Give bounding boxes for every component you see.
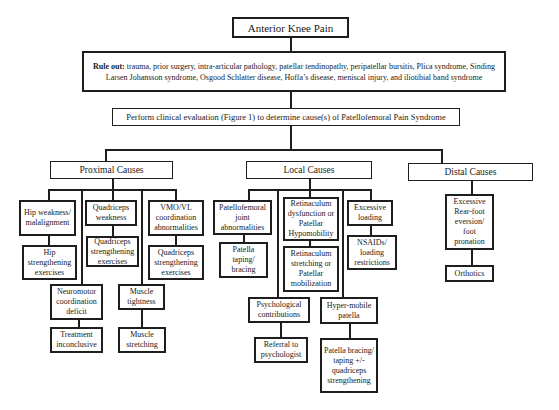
distal-causes-label: Distal Causes <box>445 167 497 177</box>
connector <box>290 125 292 149</box>
connector <box>175 189 177 200</box>
vmo-vl-label: VMO/VL coordination abnormalities <box>152 203 200 233</box>
hip-weakness-box: Hip weakness/ malalignment <box>19 200 76 236</box>
connector <box>243 235 245 242</box>
hyper-mobile-label: Hyper-mobile patella <box>324 301 374 321</box>
nsaids-box: NSAIDs/ loading restrictions <box>347 235 397 270</box>
connector <box>112 189 114 200</box>
treatment-inconclusive-label: Treatment inconclusive <box>54 330 99 350</box>
connector <box>342 189 344 297</box>
connector <box>370 189 372 200</box>
connector <box>141 189 143 284</box>
connector <box>81 189 83 284</box>
local-causes-box: Local Causes <box>246 161 372 179</box>
patella-bracing-box: Patella bracing/ taping +/- quadriceps s… <box>320 338 378 393</box>
patella-taping-box: Patella taping/ bracing <box>219 242 268 278</box>
nsaids-label: NSAIDs/ loading restrictions <box>351 238 393 268</box>
connector <box>78 320 80 327</box>
psychological-label: Psychological contributions <box>252 300 306 320</box>
retinaculum-dysfunction-label: Retinaculum dysfunction or Patellar Hypo… <box>287 199 335 239</box>
proximal-causes-box: Proximal Causes <box>50 161 173 179</box>
quadriceps-strengthening-label-2: Quadriceps strengthening exercises <box>152 248 200 278</box>
proximal-causes-label: Proximal Causes <box>79 165 143 175</box>
patellofemoral-label: Patellofemoral joint abnormalities <box>217 203 268 233</box>
rear-foot-eversion-box: Excessive Rear-foot eversion/ foot prona… <box>445 194 494 250</box>
connector <box>277 189 279 297</box>
muscle-stretching-label: Muscle stretching <box>122 330 162 350</box>
connector <box>112 178 114 189</box>
quadriceps-strengthening-label-1: Quadriceps strengthening exercises <box>90 237 135 267</box>
rule-out-label: Rule out: <box>93 62 125 71</box>
hyper-mobile-box: Hyper-mobile patella <box>320 297 378 324</box>
psychological-box: Psychological contributions <box>248 297 310 323</box>
connector <box>48 236 50 245</box>
connector <box>175 236 177 245</box>
clinical-evaluation-box: Perform clinical evaluation (Figure 1) t… <box>112 108 460 126</box>
connector <box>280 322 282 337</box>
connector <box>290 37 292 51</box>
local-causes-label: Local Causes <box>284 165 335 175</box>
orthotics-box: Orthotics <box>445 265 494 282</box>
muscle-tightness-box: Muscle tightness <box>118 284 165 310</box>
connector <box>471 249 473 265</box>
patellofemoral-box: Patellofemoral joint abnormalities <box>213 200 272 235</box>
hip-strengthening-box: Hip strengthening exercises <box>22 245 77 280</box>
neuromotor-label: Neuromotor coordination deficit <box>54 287 99 317</box>
connector <box>471 180 473 195</box>
treatment-inconclusive-box: Treatment inconclusive <box>50 327 103 353</box>
retinaculum-stretching-label: Retinaculum stretching or Patellar mobil… <box>287 249 335 289</box>
muscle-stretching-box: Muscle stretching <box>118 327 166 353</box>
hip-weakness-label: Hip weakness/ malalignment <box>23 208 72 228</box>
clinical-evaluation-label: Perform clinical evaluation (Figure 1) t… <box>126 112 445 122</box>
excessive-loading-label: Excessive loading <box>351 203 389 223</box>
connector <box>349 323 351 338</box>
rule-out-text: trauma, prior surgery, intra-articular p… <box>106 62 495 82</box>
connector <box>309 179 311 189</box>
referral-box: Referral to psychologist <box>254 337 308 363</box>
patella-taping-label: Patella taping/ bracing <box>223 245 264 275</box>
connector <box>290 91 292 108</box>
connector <box>441 149 443 163</box>
orthotics-label: Orthotics <box>455 269 485 279</box>
quadriceps-strengthening-box-1: Quadriceps strengthening exercises <box>86 236 139 267</box>
connector <box>141 310 143 327</box>
muscle-tightness-label: Muscle tightness <box>122 287 161 307</box>
retinaculum-stretching-box: Retinaculum stretching or Patellar mobil… <box>283 246 339 292</box>
hip-strengthening-label: Hip strengthening exercises <box>26 248 73 278</box>
connector <box>248 189 250 200</box>
quadriceps-weakness-box: Quadriceps weakness <box>85 200 137 226</box>
anterior-knee-pain-label: Anterior Knee Pain <box>248 23 334 33</box>
retinaculum-dysfunction-box: Retinaculum dysfunction or Patellar Hypo… <box>283 197 339 241</box>
patella-bracing-label: Patella bracing/ taping +/- quadriceps s… <box>324 346 374 386</box>
referral-label: Referral to psychologist <box>258 340 304 360</box>
vmo-vl-box: VMO/VL coordination abnormalities <box>148 200 204 236</box>
rear-foot-eversion-label: Excessive Rear-foot eversion/ foot prona… <box>449 197 490 247</box>
connector <box>112 226 114 236</box>
quadriceps-weakness-label: Quadriceps weakness <box>89 203 133 223</box>
connector <box>370 226 372 235</box>
connector <box>105 149 442 151</box>
excessive-loading-box: Excessive loading <box>347 200 393 226</box>
neuromotor-box: Neuromotor coordination deficit <box>50 284 103 320</box>
anterior-knee-pain-box: Anterior Knee Pain <box>232 17 349 38</box>
quadriceps-strengthening-box-2: Quadriceps strengthening exercises <box>148 245 204 280</box>
rule-out-box: Rule out: trauma, prior surgery, intra-a… <box>82 51 506 92</box>
distal-causes-box: Distal Causes <box>408 163 533 181</box>
connector <box>105 149 107 161</box>
connector <box>48 189 50 200</box>
